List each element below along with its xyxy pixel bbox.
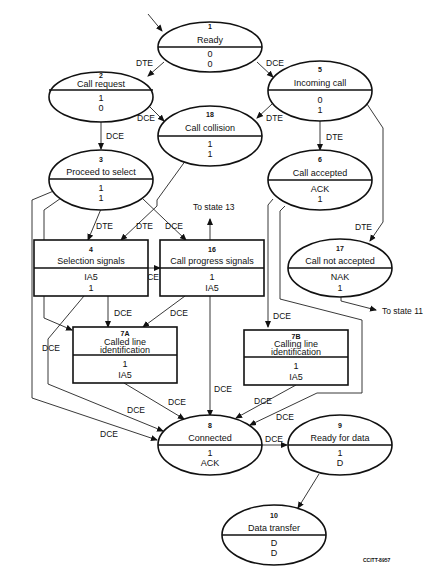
svg-text:1: 1 — [98, 193, 103, 203]
note-to-state-11: To state 11 — [382, 306, 423, 316]
state-7b-calling-line-identification[interactable]: 7B Calling line identification 1 IA5 — [244, 330, 348, 385]
label-16-7a: DCE — [170, 308, 188, 318]
state-10-data-transfer[interactable]: 10 Data transfer D D — [222, 505, 326, 565]
svg-text:17: 17 — [336, 245, 344, 252]
svg-text:6: 6 — [318, 156, 322, 163]
svg-text:1: 1 — [122, 359, 127, 369]
svg-text:1: 1 — [98, 183, 103, 193]
svg-text:1: 1 — [207, 139, 212, 149]
svg-text:Selection signals: Selection signals — [57, 256, 125, 266]
label-1-2: DTE — [136, 58, 153, 68]
svg-text:identification: identification — [271, 347, 321, 357]
svg-text:Call progress signals: Call progress signals — [170, 256, 254, 266]
label-3-4: DTE — [96, 221, 113, 231]
svg-text:Ready: Ready — [197, 35, 224, 45]
state-4-selection-signals[interactable]: 4 Selection signals IA5 1 — [34, 240, 148, 296]
svg-text:1: 1 — [88, 283, 93, 293]
svg-text:NAK: NAK — [331, 272, 350, 282]
label-6-8: DCE — [276, 412, 294, 422]
svg-text:1: 1 — [208, 23, 212, 30]
entry-arrow — [148, 14, 162, 31]
state-9-ready-for-data[interactable]: 9 Ready for data 1 D — [288, 415, 392, 475]
svg-text:Call request: Call request — [77, 79, 126, 89]
svg-text:1: 1 — [317, 194, 322, 204]
svg-text:10: 10 — [270, 512, 278, 519]
svg-text:9: 9 — [338, 422, 342, 429]
svg-text:Proceed to select: Proceed to select — [66, 167, 136, 177]
state-18-call-collision[interactable]: 18 Call collision 1 1 — [158, 106, 262, 166]
state-6-call-accepted[interactable]: 6 Call accepted ACK 1 — [268, 150, 372, 210]
label-7b-8: DCE — [254, 396, 272, 406]
label-3-16: DCE — [165, 221, 183, 231]
svg-text:4: 4 — [89, 246, 93, 253]
svg-text:1: 1 — [337, 448, 342, 458]
label-8-9: DCE — [265, 434, 283, 444]
label-6-7b: DCE — [273, 311, 291, 321]
svg-text:1: 1 — [209, 272, 214, 282]
svg-text:1: 1 — [207, 448, 212, 458]
note-to-state-13: To state 13 — [193, 202, 235, 212]
figure-caption: CCITT-8957 — [363, 557, 390, 563]
svg-text:18: 18 — [206, 111, 214, 118]
edge-17-to-11 — [341, 297, 376, 310]
svg-text:7A: 7A — [121, 330, 130, 337]
state-diagram: DTE DCE DCE DCE DTE DTE DTE DTE DTE DCE … — [0, 0, 436, 575]
svg-text:Call not accepted: Call not accepted — [305, 256, 375, 266]
state-16-call-progress-signals[interactable]: 16 Call progress signals 1 IA5 — [160, 240, 264, 296]
svg-text:8: 8 — [208, 422, 212, 429]
svg-text:Incoming call: Incoming call — [294, 78, 347, 88]
svg-text:1: 1 — [337, 283, 342, 293]
label-16-8: DCE — [214, 384, 232, 394]
svg-text:IA5: IA5 — [289, 372, 303, 382]
svg-text:0: 0 — [317, 95, 322, 105]
label-18-4: DTE — [136, 221, 153, 231]
svg-text:Connected: Connected — [188, 433, 232, 443]
svg-text:5: 5 — [318, 66, 322, 73]
state-3-proceed-to-select[interactable]: 3 Proceed to select 1 1 — [49, 150, 153, 210]
label-2-3: DCE — [106, 131, 124, 141]
state-1-ready[interactable]: 1 Ready 0 0 — [158, 22, 262, 72]
svg-text:0: 0 — [207, 49, 212, 59]
label-7a-8: DCE — [168, 397, 186, 407]
label-3-7a: DCE — [42, 343, 60, 353]
svg-text:Data transfer: Data transfer — [248, 523, 300, 533]
state-5-incoming-call[interactable]: 5 Incoming call 0 1 — [268, 61, 372, 121]
label-5-6: DTE — [326, 132, 343, 142]
svg-text:D: D — [271, 548, 278, 558]
svg-text:1: 1 — [317, 105, 322, 115]
svg-text:16: 16 — [208, 246, 216, 253]
state-8-connected[interactable]: 8 Connected 1 ACK — [158, 415, 262, 475]
edge-9-10 — [298, 474, 319, 508]
svg-text:ACK: ACK — [311, 184, 330, 194]
state-2-call-request[interactable]: 2 Call request 1 0 — [49, 72, 153, 122]
svg-text:IA5: IA5 — [118, 370, 132, 380]
svg-text:1: 1 — [207, 149, 212, 159]
edge-3-16 — [143, 199, 186, 240]
svg-text:0: 0 — [98, 103, 103, 113]
state-17-call-not-accepted[interactable]: 17 Call not accepted NAK 1 — [288, 239, 392, 297]
label-4-7a: DCE — [114, 308, 132, 318]
label-5-17: DTE — [355, 222, 372, 232]
svg-text:D: D — [271, 538, 278, 548]
svg-text:identification: identification — [100, 345, 150, 355]
svg-text:IA5: IA5 — [205, 283, 219, 293]
label-1-5: DCE — [266, 58, 284, 68]
label-3-8: DCE — [100, 429, 118, 439]
svg-text:3: 3 — [99, 156, 103, 163]
svg-text:ACK: ACK — [201, 458, 220, 468]
svg-text:1: 1 — [293, 361, 298, 371]
svg-text:1: 1 — [98, 93, 103, 103]
svg-text:Ready for data: Ready for data — [310, 433, 369, 443]
label-5-18: DTE — [266, 113, 283, 123]
svg-text:Call accepted: Call accepted — [293, 168, 348, 178]
state-7a-called-line-identification[interactable]: 7A Called line identification 1 IA5 — [73, 327, 177, 383]
edge-6-7b — [268, 199, 273, 327]
svg-text:D: D — [337, 458, 344, 468]
svg-text:Call collision: Call collision — [185, 123, 235, 133]
svg-text:0: 0 — [207, 59, 212, 69]
label-4-8: DCE — [127, 405, 145, 415]
svg-text:IA5: IA5 — [84, 272, 98, 282]
svg-text:2: 2 — [99, 72, 103, 79]
